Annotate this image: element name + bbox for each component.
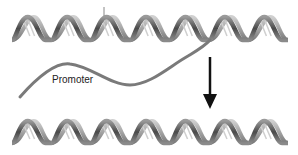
promoter-label: Promoter <box>52 74 93 85</box>
promoter-strand <box>20 40 210 97</box>
top-dna-helix <box>12 17 288 40</box>
bottom-dna-helix <box>12 121 288 143</box>
diagram-canvas <box>0 0 298 155</box>
down-arrow-icon <box>203 57 217 109</box>
